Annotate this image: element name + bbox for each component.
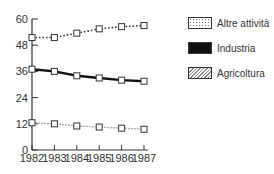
data-point-marker [29, 120, 35, 126]
data-point-marker [141, 23, 147, 29]
y-tick-label: 48 [16, 39, 28, 51]
data-point-marker [51, 35, 57, 41]
legend-label: Altre attività [217, 18, 269, 29]
x-tick-label: 1984 [65, 152, 89, 164]
legend-item-industria: Industria [188, 41, 269, 55]
x-tick-label: 1987 [132, 152, 156, 164]
data-point-marker [141, 126, 147, 132]
series-line [32, 69, 144, 81]
hatched-swatch-icon [188, 67, 212, 79]
y-tick-label: 24 [16, 92, 28, 104]
data-point-marker [96, 75, 102, 81]
y-tick-label: 36 [16, 65, 28, 77]
series-line [32, 123, 144, 130]
data-point-marker [141, 78, 147, 84]
data-point-marker [74, 73, 80, 79]
legend-item-agricoltura: Agricoltura [188, 66, 269, 80]
data-point-marker [74, 123, 80, 129]
data-point-marker [96, 26, 102, 32]
series-line [32, 26, 144, 38]
data-point-marker [51, 68, 57, 74]
y-tick-label: 60 [16, 13, 28, 25]
x-tick-label: 1986 [109, 152, 133, 164]
x-tick-label: 1983 [42, 152, 66, 164]
data-point-marker [119, 24, 125, 30]
data-point-marker [51, 121, 57, 127]
legend: Altre attività Industria Agricoltura [188, 16, 269, 91]
legend-label: Industria [217, 43, 255, 54]
data-point-marker [29, 35, 35, 41]
data-point-marker [74, 30, 80, 36]
y-tick-label: 12 [16, 118, 28, 130]
x-tick-label: 1985 [87, 152, 111, 164]
data-point-marker [119, 125, 125, 131]
x-tick-label: 1982 [20, 152, 44, 164]
dotted-swatch-icon [188, 17, 212, 29]
data-point-marker [96, 124, 102, 130]
data-point-marker [29, 66, 35, 72]
legend-item-altre-attivita: Altre attività [188, 16, 269, 30]
solid-swatch-icon [188, 42, 212, 54]
legend-label: Agricoltura [217, 68, 265, 79]
data-point-marker [119, 77, 125, 83]
